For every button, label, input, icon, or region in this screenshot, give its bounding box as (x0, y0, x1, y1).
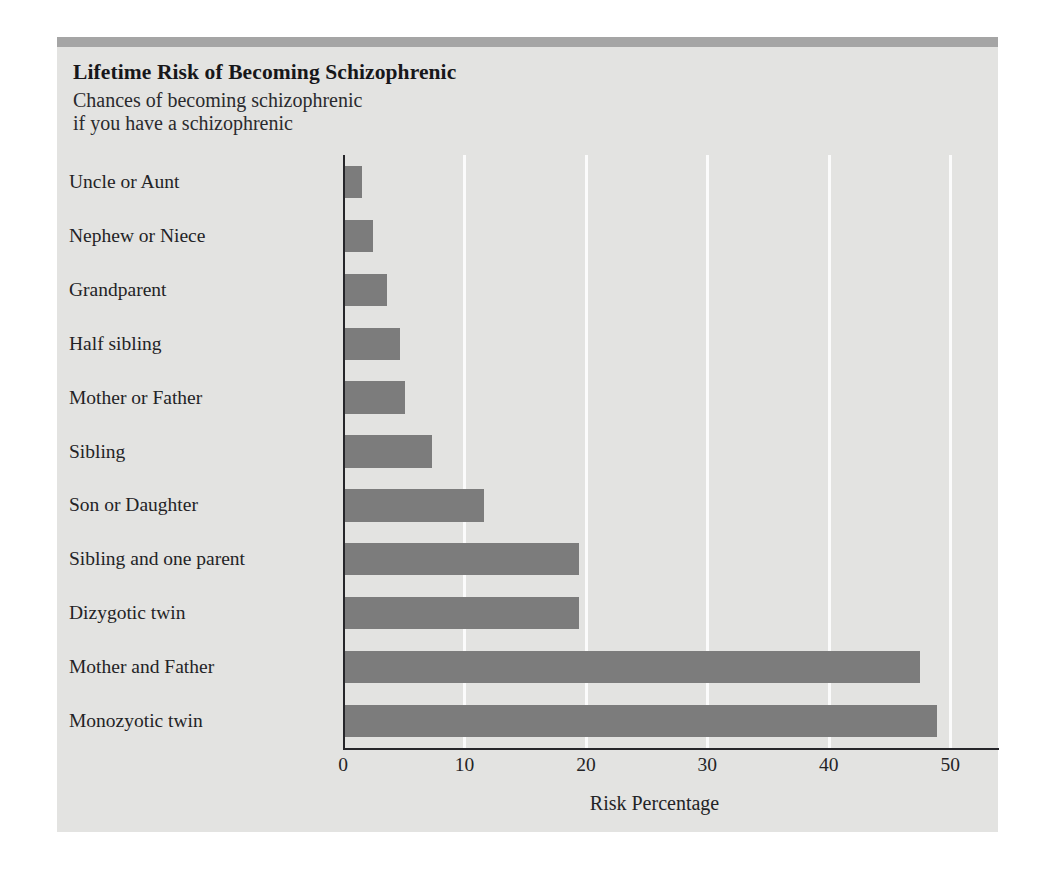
bar[interactable] (343, 651, 920, 683)
bar[interactable] (343, 381, 405, 413)
bar-row (343, 489, 966, 521)
bar[interactable] (343, 435, 432, 467)
x-tick-label: 0 (338, 755, 348, 775)
bar-row (343, 597, 966, 629)
bar-row (343, 651, 966, 683)
y-tick-label: Dizygotic twin (69, 602, 185, 624)
bar[interactable] (343, 543, 579, 575)
bar-row (343, 543, 966, 575)
x-tick-label: 20 (576, 755, 596, 775)
y-tick-label: Grandparent (69, 279, 166, 301)
y-axis-line (343, 155, 345, 750)
x-axis-title: Risk Percentage (343, 792, 966, 815)
bar[interactable] (343, 597, 579, 629)
y-axis-tick-labels: Uncle or AuntNephew or NieceGrandparentH… (57, 155, 337, 748)
bar-row (343, 274, 966, 306)
bar[interactable] (343, 328, 400, 360)
bar-row (343, 705, 966, 737)
bar[interactable] (343, 705, 937, 737)
y-tick-label: Sibling and one parent (69, 548, 245, 570)
y-tick-label: Son or Daughter (69, 494, 198, 516)
y-tick-label: Uncle or Aunt (69, 171, 179, 193)
y-tick-label: Mother and Father (69, 656, 214, 678)
plot-area (343, 155, 966, 748)
bar[interactable] (343, 220, 373, 252)
x-tick-label: 30 (698, 755, 718, 775)
bar-row (343, 328, 966, 360)
bar-row (343, 166, 966, 198)
bar-row (343, 220, 966, 252)
chart-panel: Lifetime Risk of Becoming Schizophrenic … (57, 37, 998, 832)
plot-wrapper: Uncle or AuntNephew or NieceGrandparentH… (57, 37, 998, 832)
bar[interactable] (343, 166, 362, 198)
y-tick-label: Half sibling (69, 333, 162, 355)
bar-row (343, 381, 966, 413)
y-tick-label: Mother or Father (69, 387, 202, 409)
bar[interactable] (343, 274, 387, 306)
y-tick-label: Nephew or Niece (69, 225, 205, 247)
bar-row (343, 435, 966, 467)
x-tick-label: 50 (940, 755, 960, 775)
x-tick-label: 40 (819, 755, 839, 775)
y-tick-label: Sibling (69, 441, 125, 463)
x-tick-label: 10 (455, 755, 475, 775)
bar[interactable] (343, 489, 484, 521)
y-tick-label: Monozyotic twin (69, 710, 203, 732)
x-axis-line (343, 748, 999, 750)
